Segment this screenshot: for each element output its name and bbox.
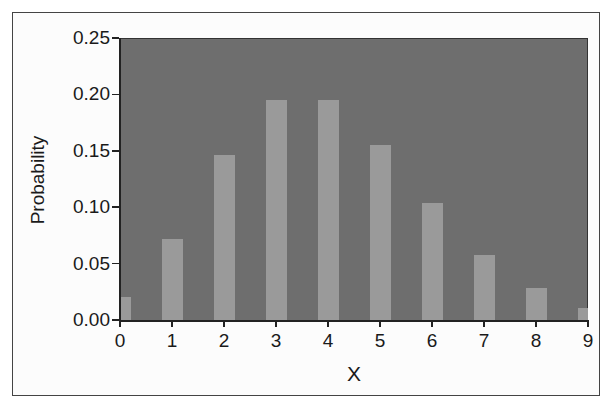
y-tick-mark (112, 94, 119, 96)
x-tick-mark (223, 320, 225, 327)
x-tick-mark (275, 320, 277, 327)
x-tick-mark (535, 320, 537, 327)
y-axis-title: Probability (27, 136, 49, 225)
bar-5 (370, 145, 391, 320)
x-tick-label: 1 (162, 330, 182, 352)
x-tick-mark (483, 320, 485, 327)
bar-3 (266, 100, 287, 320)
x-tick-mark (327, 320, 329, 327)
y-tick-mark (112, 319, 119, 321)
y-tick-label: 0.25 (30, 28, 110, 47)
x-tick-mark (431, 320, 433, 327)
y-tick-mark (112, 206, 119, 208)
bar-8 (526, 288, 547, 320)
x-tick-label: 3 (266, 330, 286, 352)
y-tick-mark (112, 263, 119, 265)
y-tick-label: 0.20 (30, 84, 110, 103)
y-tick-mark (112, 150, 119, 152)
x-tick-mark (171, 320, 173, 327)
plot-area (120, 38, 588, 320)
x-tick-label: 6 (422, 330, 442, 352)
x-tick-label: 9 (578, 330, 598, 352)
bar-1 (162, 239, 183, 320)
y-tick-label: 0.00 (30, 310, 110, 329)
bar-4 (318, 100, 339, 320)
x-tick-label: 5 (370, 330, 390, 352)
x-tick-label: 4 (318, 330, 338, 352)
bar-0 (120, 297, 131, 320)
x-tick-label: 7 (474, 330, 494, 352)
x-tick-mark (587, 320, 589, 327)
y-axis-line (119, 38, 121, 321)
y-tick-mark (112, 37, 119, 39)
bar-7 (474, 255, 495, 320)
x-tick-mark (379, 320, 381, 327)
bar-9 (578, 308, 589, 320)
x-tick-label: 0 (110, 330, 130, 352)
x-tick-mark (119, 320, 121, 327)
x-axis-line (119, 320, 589, 322)
x-axis-title: X (344, 362, 364, 386)
x-tick-label: 8 (526, 330, 546, 352)
y-tick-label: 0.05 (30, 254, 110, 273)
bar-2 (214, 155, 235, 320)
x-tick-label: 2 (214, 330, 234, 352)
bar-6 (422, 203, 443, 320)
